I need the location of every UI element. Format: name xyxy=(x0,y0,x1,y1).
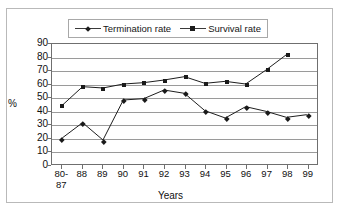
plot-area xyxy=(51,43,318,165)
x-tick-label: 98 xyxy=(282,168,293,179)
x-tick-mark xyxy=(226,165,227,169)
x-tick-label: 95 xyxy=(220,168,231,179)
data-point-square xyxy=(142,81,146,85)
chart-figure: Termination rateSurvival rate % 90807060… xyxy=(0,0,341,212)
y-tick-mark xyxy=(47,124,51,125)
data-point-square xyxy=(266,68,270,72)
y-tick-mark xyxy=(47,151,51,152)
data-point-square xyxy=(204,82,208,86)
legend-entry-1[interactable]: Termination rate xyxy=(75,23,171,34)
x-tick-mark xyxy=(205,165,206,169)
x-axis-title: Years xyxy=(0,190,341,201)
x-tick-label: 88 xyxy=(77,168,88,179)
chart-legend: Termination rateSurvival rate xyxy=(68,19,268,38)
data-point-square xyxy=(81,85,85,89)
x-tick-mark xyxy=(185,165,186,169)
data-point-square xyxy=(184,75,188,79)
x-tick-mark xyxy=(267,165,268,169)
series-line-1 xyxy=(62,90,307,140)
x-tick-mark xyxy=(287,165,288,169)
x-tick-mark xyxy=(102,165,103,169)
x-tick-mark xyxy=(308,165,309,169)
x-tick-label: 94 xyxy=(200,168,211,179)
x-tick-label: 91 xyxy=(138,168,149,179)
diamond-marker-icon xyxy=(75,24,101,33)
x-tick-mark xyxy=(61,165,62,169)
y-tick-mark xyxy=(47,70,51,71)
y-tick-mark xyxy=(47,111,51,112)
x-tick-label: 99 xyxy=(302,168,313,179)
legend-label: Survival rate xyxy=(208,23,261,34)
x-tick-mark xyxy=(143,165,144,169)
x-tick-mark xyxy=(123,165,124,169)
y-axis-tick-labels: 9080706050403020100 xyxy=(22,38,48,170)
x-tick-label: 89 xyxy=(97,168,108,179)
x-tick-label: 80- 87 xyxy=(54,168,68,190)
data-point-square xyxy=(286,53,290,57)
x-tick-label: 92 xyxy=(159,168,170,179)
square-marker-icon xyxy=(180,24,206,33)
x-tick-label: 93 xyxy=(179,168,190,179)
x-tick-mark xyxy=(164,165,165,169)
data-point-square xyxy=(101,87,105,91)
series-line-2 xyxy=(62,55,286,106)
x-tick-label: 96 xyxy=(241,168,252,179)
x-tick-mark xyxy=(82,165,83,169)
data-point-square xyxy=(60,104,64,108)
data-point-square xyxy=(163,79,167,83)
x-tick-mark xyxy=(246,165,247,169)
y-axis-title: % xyxy=(8,98,17,109)
y-tick-mark xyxy=(47,165,51,166)
data-point-square xyxy=(225,80,229,84)
y-tick-mark xyxy=(47,138,51,139)
x-tick-label: 90 xyxy=(118,168,129,179)
data-point-square xyxy=(122,83,126,87)
y-tick-mark xyxy=(47,57,51,58)
x-tick-label: 97 xyxy=(261,168,272,179)
y-tick-mark xyxy=(47,84,51,85)
y-tick-mark xyxy=(47,97,51,98)
legend-label: Termination rate xyxy=(103,23,171,34)
data-point-square xyxy=(245,83,249,87)
series-lines xyxy=(52,44,317,164)
legend-entry-2[interactable]: Survival rate xyxy=(180,23,261,34)
y-tick-mark xyxy=(47,43,51,44)
